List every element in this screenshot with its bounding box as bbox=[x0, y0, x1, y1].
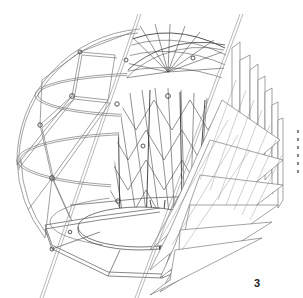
figure-number-label: 3 bbox=[254, 277, 260, 289]
shingle-panels bbox=[150, 42, 283, 295]
side-annotation-marks bbox=[296, 130, 300, 182]
dome-cutaway-drawing bbox=[0, 0, 303, 298]
